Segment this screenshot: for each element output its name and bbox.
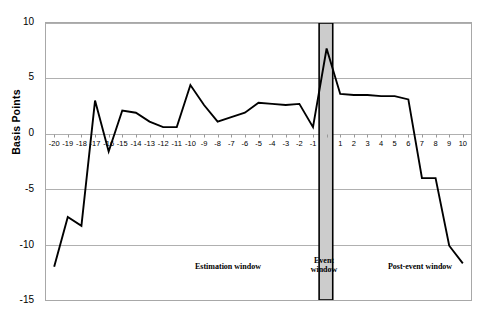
event-window-label: Event window (300, 256, 348, 274)
event-window-label-line2: window (300, 265, 348, 274)
xtick-label--1: -1 (303, 139, 323, 148)
xtick-label-10: 10 (453, 139, 473, 148)
data-series-line (54, 48, 463, 266)
estimation-window-label: Estimation window (148, 262, 308, 271)
event-window-label-line1: Event (300, 256, 348, 265)
plot-area-border (46, 23, 472, 301)
post-event-window-label: Post-event window (360, 262, 480, 271)
basis-points-event-study-chart: Basis Points 10 5 0 -5 -10 -15 -20-19-18… (0, 0, 489, 318)
gridlines (46, 24, 471, 301)
